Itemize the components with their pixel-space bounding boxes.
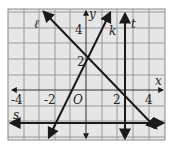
y-axis-label: y — [88, 7, 96, 21]
label-l: ℓ — [34, 17, 39, 31]
label-s: s — [13, 108, 19, 122]
coordinate-plane: ℓ k t s x y -4 -2 2 4 2 4 O — [0, 0, 173, 150]
tick-x-2: 2 — [113, 93, 121, 107]
label-k: k — [109, 24, 116, 38]
tick-x-neg2: -2 — [44, 93, 56, 107]
label-t: t — [131, 17, 136, 31]
x-axis-label: x — [155, 74, 162, 88]
tick-y-4: 4 — [75, 23, 83, 37]
tick-y-2: 2 — [77, 55, 85, 69]
origin-label: O — [73, 93, 83, 107]
tick-x-4: 4 — [145, 93, 153, 107]
tick-x-neg4: -4 — [11, 93, 23, 107]
